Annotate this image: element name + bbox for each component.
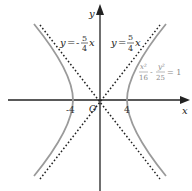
asymptote-negative-label: y = - 5 4 x <box>59 34 95 53</box>
svg-text:5: 5 <box>82 34 87 43</box>
svg-text:=: = <box>118 37 126 48</box>
svg-text:y: y <box>59 37 66 48</box>
svg-text:-: - <box>150 68 153 77</box>
tick-right-vertex: 4 <box>124 105 130 115</box>
asymptote-positive-label: y = 5 4 x <box>110 33 141 53</box>
tick-left-vertex: -4 <box>66 105 75 115</box>
svg-text:25: 25 <box>156 74 165 82</box>
origin-label: O <box>89 104 97 114</box>
y-axis-label: y <box>88 8 95 19</box>
svg-text:16: 16 <box>139 74 148 82</box>
svg-text:4: 4 <box>128 44 133 53</box>
svg-text:x: x <box>89 37 95 48</box>
svg-text:-: - <box>76 37 79 48</box>
x-axis-arrow-icon <box>180 96 190 104</box>
svg-text:5: 5 <box>128 33 133 42</box>
svg-text:y²: y² <box>157 63 165 71</box>
hyperbola-equation: x² 16 - y² 25 = 1 <box>139 63 181 82</box>
hyperbola-diagram: y x O -4 4 y = - 5 4 x y = 5 4 x x² 16 -… <box>0 0 192 191</box>
svg-text:4: 4 <box>82 44 87 53</box>
svg-text:x²: x² <box>140 63 147 71</box>
svg-text:= 1: = 1 <box>167 68 181 77</box>
svg-text:y: y <box>110 37 117 48</box>
x-axis-label: x <box>182 105 188 116</box>
svg-text:x: x <box>135 37 141 48</box>
y-axis-arrow-icon <box>96 4 104 15</box>
svg-text:=: = <box>67 37 75 48</box>
